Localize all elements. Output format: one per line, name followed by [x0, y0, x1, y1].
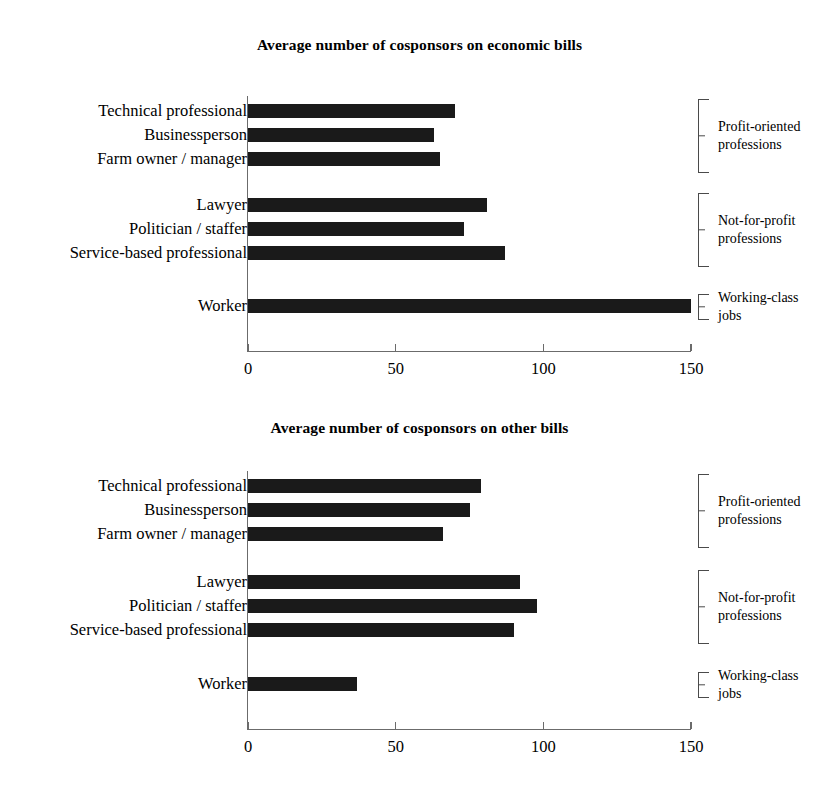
x-axis-tick: [690, 344, 691, 351]
bar: [248, 677, 357, 691]
group-bracket-label-line1: Profit-oriented: [718, 118, 800, 136]
figure-page: Average number of cosponsors on economic…: [0, 0, 839, 785]
group-bracket-label: Profit-oriented professions: [718, 118, 800, 153]
bar: [248, 222, 464, 236]
group-bracket-label-line1: Not-for-profit: [718, 212, 795, 230]
bar: [248, 527, 443, 541]
x-axis-tick: [690, 722, 691, 729]
x-axis-tick: [543, 344, 544, 351]
bar: [248, 623, 514, 637]
x-axis-tick-label: 100: [531, 737, 556, 757]
group-bracket: [698, 193, 709, 267]
group-bracket-label: Working-class jobs: [718, 667, 799, 702]
x-axis-tick-label: 100: [531, 359, 556, 379]
group-bracket: [698, 474, 709, 548]
chart-economic-bills: Average number of cosponsors on economic…: [0, 0, 839, 400]
category-label: Service-based professional: [70, 622, 247, 639]
x-axis-tick: [247, 344, 248, 351]
category-label: Politician / staffer: [129, 221, 247, 238]
group-bracket-label: Working-class jobs: [718, 289, 799, 324]
x-axis-tick-label: 50: [387, 359, 404, 379]
group-bracket-label-line2: jobs: [718, 685, 799, 703]
bar: [248, 128, 434, 142]
group-bracket-label: Not-for-profit professions: [718, 212, 795, 247]
category-label: Lawyer: [197, 197, 247, 214]
bar: [248, 599, 537, 613]
x-axis-line: [247, 351, 691, 352]
category-label: Businessperson: [144, 502, 247, 519]
group-bracket-label: Not-for-profit professions: [718, 589, 795, 624]
group-bracket: [698, 672, 709, 698]
bar: [248, 104, 455, 118]
bar: [248, 479, 481, 493]
category-label: Businessperson: [144, 127, 247, 144]
x-axis-tick-label: 150: [679, 737, 704, 757]
group-bracket-label-line2: professions: [718, 230, 795, 248]
category-label: Worker: [198, 298, 247, 315]
category-label: Politician / staffer: [129, 598, 247, 615]
group-bracket-label-line1: Working-class: [718, 289, 799, 307]
bar: [248, 152, 440, 166]
x-axis-tick-label: 0: [244, 359, 252, 379]
chart-title: Average number of cosponsors on other bi…: [0, 419, 839, 437]
category-label: Technical professional: [98, 478, 247, 495]
group-bracket-label-line1: Profit-oriented: [718, 493, 800, 511]
bar: [248, 299, 691, 313]
category-label: Farm owner / manager: [97, 151, 247, 168]
bar: [248, 575, 520, 589]
bar: [248, 246, 505, 260]
x-axis-tick-label: 150: [679, 359, 704, 379]
x-axis-line: [247, 729, 691, 730]
group-bracket-label-line1: Not-for-profit: [718, 589, 795, 607]
group-bracket: [698, 99, 709, 173]
x-axis-tick-label: 0: [244, 737, 252, 757]
group-bracket-label-line1: Working-class: [718, 667, 799, 685]
x-axis-tick: [247, 722, 248, 729]
group-bracket-label-line2: professions: [718, 136, 800, 154]
plot-area: Technical professional Businessperson Fa…: [0, 471, 839, 781]
group-bracket: [698, 294, 709, 320]
x-axis-tick: [395, 344, 396, 351]
group-bracket: [698, 570, 709, 644]
chart-title: Average number of cosponsors on economic…: [0, 36, 839, 54]
x-axis-tick-label: 50: [387, 737, 404, 757]
category-label: Worker: [198, 676, 247, 693]
category-label: Technical professional: [98, 103, 247, 120]
group-bracket-label-line2: jobs: [718, 307, 799, 325]
bar: [248, 198, 487, 212]
group-bracket-label: Profit-oriented professions: [718, 493, 800, 528]
category-label: Service-based professional: [70, 245, 247, 262]
category-label: Lawyer: [197, 574, 247, 591]
x-axis-tick: [543, 722, 544, 729]
group-bracket-label-line2: professions: [718, 511, 800, 529]
x-axis-tick: [395, 722, 396, 729]
category-label: Farm owner / manager: [97, 526, 247, 543]
chart-other-bills: Average number of cosponsors on other bi…: [0, 393, 839, 785]
bar: [248, 503, 470, 517]
plot-area: Technical professional Businessperson Fa…: [0, 96, 839, 396]
group-bracket-label-line2: professions: [718, 607, 795, 625]
